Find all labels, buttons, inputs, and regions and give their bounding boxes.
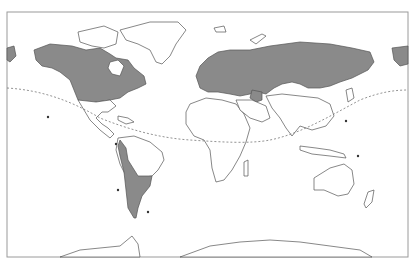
madagascar <box>244 160 248 176</box>
marker <box>345 120 347 122</box>
marker <box>147 211 149 213</box>
marker <box>117 189 119 191</box>
world-map <box>0 0 416 266</box>
marker <box>47 116 49 118</box>
marker <box>115 143 117 145</box>
marker <box>357 155 359 157</box>
